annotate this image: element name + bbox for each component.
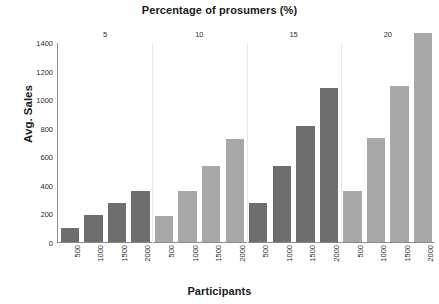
x-axis-label: Participants	[0, 285, 439, 297]
bar	[84, 215, 102, 242]
bar-chart: Percentage of prosumers (%) Avg. Sales 0…	[0, 0, 439, 304]
x-axis-tick: 2000	[143, 245, 152, 262]
x-axis-tick: 500	[73, 245, 82, 258]
bar	[367, 138, 385, 242]
y-axis-tick: 200	[40, 210, 53, 219]
y-axis-tick: 0	[49, 239, 53, 248]
chart-top-title: Percentage of prosumers (%)	[0, 4, 439, 16]
y-axis-tick: 1000	[36, 96, 53, 105]
bar	[226, 139, 244, 242]
y-axis-tick: 400	[40, 181, 53, 190]
group-label: 15	[289, 30, 297, 39]
group-label: 20	[384, 30, 392, 39]
y-axis-tick: 1200	[36, 67, 53, 76]
bar	[296, 126, 314, 242]
x-axis-tick: 1500	[308, 245, 317, 262]
bar	[155, 216, 173, 242]
y-axis-tick: 800	[40, 124, 53, 133]
x-axis-tick: 2000	[332, 245, 341, 262]
y-axis-tick: 600	[40, 153, 53, 162]
bar	[414, 33, 432, 242]
x-axis-tick: 500	[167, 245, 176, 258]
bar	[202, 166, 220, 242]
bar	[343, 191, 361, 242]
x-axis-tick: 500	[261, 245, 270, 258]
bar	[273, 166, 291, 242]
bar	[390, 86, 408, 242]
group-separator	[341, 43, 342, 243]
bar	[108, 203, 126, 242]
y-axis-tick: 1400	[36, 39, 53, 48]
y-axis-label: Avg. Sales	[22, 59, 34, 169]
x-axis-tick: 1000	[285, 245, 294, 262]
bar	[178, 191, 196, 242]
x-axis-tick: 1000	[379, 245, 388, 262]
bar	[249, 203, 267, 242]
bar	[320, 88, 338, 242]
group-label: 10	[195, 30, 203, 39]
group-label: 5	[103, 30, 107, 39]
plot-area: 0200400600800100012001400550010001500200…	[57, 43, 434, 243]
group-separator	[152, 43, 153, 243]
x-axis-tick: 1500	[120, 245, 129, 262]
x-axis-tick: 1000	[96, 245, 105, 262]
x-axis-tick: 2000	[426, 245, 435, 262]
bar	[131, 191, 149, 242]
x-axis-tick: 2000	[238, 245, 247, 262]
x-axis-tick: 1500	[214, 245, 223, 262]
bar	[61, 228, 79, 242]
x-axis-tick: 1500	[403, 245, 412, 262]
x-axis-tick: 500	[356, 245, 365, 258]
group-separator	[247, 43, 248, 243]
x-axis-tick: 1000	[191, 245, 200, 262]
